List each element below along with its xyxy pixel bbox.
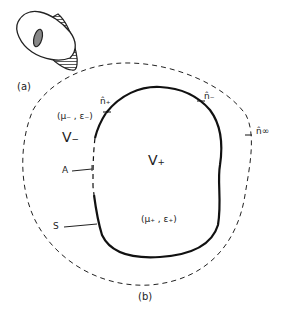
caption-b: (b) <box>138 292 152 302</box>
surface-label: S <box>53 222 59 231</box>
aperture-leader <box>72 169 92 171</box>
surface-leader <box>64 224 97 227</box>
region-v-plus: V₊ <box>148 153 165 167</box>
region-v-minus: V₋ <box>62 130 79 144</box>
aperture-boundary <box>93 138 95 195</box>
caption-a: (a) <box>17 82 31 92</box>
material-inner: (μ₊ , ε₊) <box>141 215 177 224</box>
normal-minus-label: n̂₋ <box>204 92 214 101</box>
normal-infinity-label: n̂∞ <box>256 127 269 136</box>
normal-plus-label: n̂₊ <box>100 97 110 106</box>
inner-boundary-solid <box>94 87 221 257</box>
cylinder-icon <box>17 11 77 70</box>
normal-markers <box>103 101 252 135</box>
aperture-label: A <box>62 166 68 175</box>
outer-boundary <box>23 63 252 285</box>
diagram-figure <box>0 0 282 317</box>
material-outer: (μ₋ , ε₋) <box>57 112 93 121</box>
